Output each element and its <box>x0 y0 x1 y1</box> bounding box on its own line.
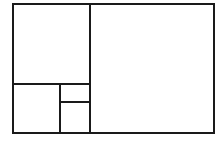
outer-rectangle <box>13 4 214 133</box>
golden-rectangle-diagram <box>0 0 224 143</box>
